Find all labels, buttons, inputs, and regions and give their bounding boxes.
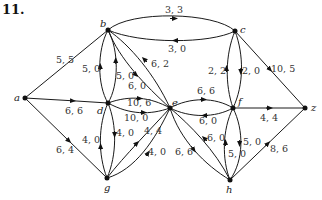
edge-label-g-d-left: 4, 0: [82, 134, 100, 145]
node-d: [106, 101, 111, 106]
node-label-g: g: [104, 182, 110, 193]
node-label-a: a: [14, 92, 20, 103]
flow-network-diagram: 11.: [0, 0, 322, 200]
edge-label-b-c-top: 3, 3: [165, 4, 183, 15]
node-labels: a b c d e f z g h: [14, 18, 317, 195]
edge-d-g-right: [107, 103, 115, 178]
edge-label-d-e-top: 10, 6: [127, 97, 151, 108]
edge-label-f-h-right: 5, 0: [243, 136, 261, 147]
edge-label-c-z: 10, 5: [271, 63, 295, 74]
node-label-c: c: [240, 24, 246, 35]
edge-label-a-d: 6, 6: [65, 105, 83, 116]
edge-label-d-b-left: 5, 0: [82, 63, 100, 74]
node-f: [231, 106, 236, 111]
edge-label-d-g-right: 4, 0: [116, 127, 134, 138]
edge-label-h-e-inner: 6, 0: [207, 132, 225, 143]
node-label-f: f: [237, 96, 244, 107]
node-label-h: h: [226, 184, 232, 195]
edge-label-e-g-bottom: 4, 0: [148, 146, 166, 157]
edge-labels: 5, 5 6, 6 6, 4 3, 3 3, 0 5, 0 5, 0 6, 2 …: [56, 4, 295, 159]
edge-label-e-b-outer: 6, 2: [151, 58, 169, 69]
node-g: [105, 176, 110, 181]
edge-label-e-f-top: 6, 6: [197, 85, 215, 96]
edge-label-c-f-right: 2, 0: [242, 65, 260, 76]
node-label-e: e: [172, 97, 178, 108]
edge-e-f-top: [170, 100, 233, 108]
problem-number: 11.: [2, 2, 25, 17]
node-a: [23, 96, 28, 101]
edge-b-d-right: [108, 30, 116, 103]
node-c: [233, 29, 238, 34]
node-label-d: d: [97, 105, 103, 116]
edge-label-h-f-left: 5, 0: [228, 148, 246, 159]
edge-c-b-bottom: [108, 30, 235, 41]
node-label-b: b: [100, 18, 106, 29]
edge-label-a-b: 5, 5: [56, 54, 74, 65]
edge-label-c-b-bottom: 3, 0: [168, 43, 186, 54]
edge-label-h-z: 8, 6: [270, 143, 288, 154]
node-h: [228, 178, 233, 183]
edge-label-e-d-bottom: 10, 0: [124, 112, 148, 123]
edge-label-b-e-inner: 6, 0: [128, 80, 146, 91]
node-label-z: z: [310, 102, 317, 113]
edge-a-b: [25, 64, 67, 98]
edge-a-g: [25, 98, 69, 141]
edge-f-c-left: [227, 31, 235, 108]
edge-label-f-e-bottom: 6, 0: [199, 115, 217, 126]
node-z: [303, 106, 308, 111]
edge-label-a-g: 6, 4: [56, 144, 74, 155]
edge-label-f-c-left: 2, 2: [208, 65, 226, 76]
edge-a-d: [25, 98, 73, 101]
edge-label-f-z: 4, 4: [260, 112, 278, 123]
edge-label-e-h-outer: 6, 6: [175, 146, 193, 157]
edge-d-b-left: [100, 30, 108, 103]
edge-label-g-e-top: 4, 4: [144, 125, 162, 136]
